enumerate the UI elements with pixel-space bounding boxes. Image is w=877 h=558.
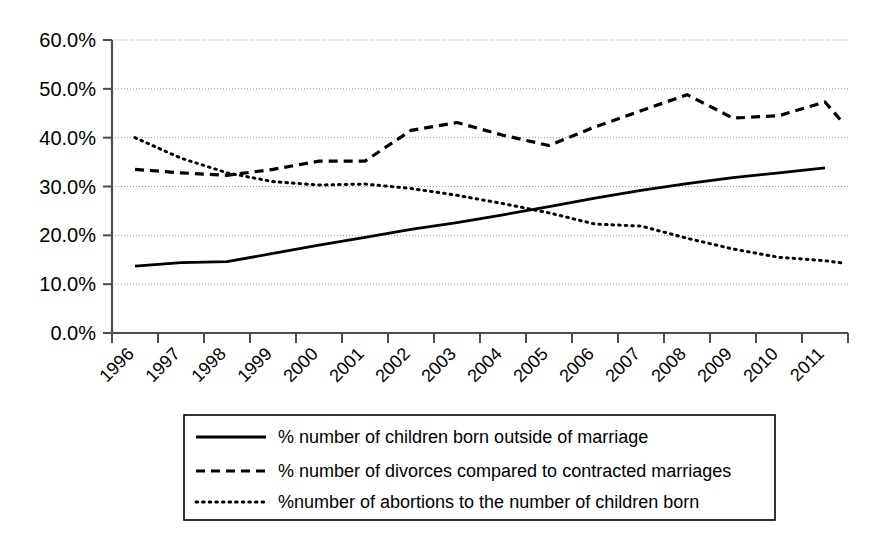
x-axis-labels: 1996199719981999200020012002200320042005… bbox=[95, 344, 827, 386]
x-tick-label-2004: 2004 bbox=[463, 344, 505, 386]
x-axis-ticks bbox=[112, 333, 848, 343]
series-line-1 bbox=[135, 95, 844, 176]
x-tick-label-2008: 2008 bbox=[647, 344, 689, 386]
y-tick-label: 50.0% bbox=[39, 78, 96, 100]
y-axis-labels: 0.0%10.0%20.0%30.0%40.0%50.0%60.0% bbox=[39, 29, 96, 344]
y-tick-label: 30.0% bbox=[39, 176, 96, 198]
x-tick-label-1996: 1996 bbox=[95, 344, 137, 386]
y-tick-label: 10.0% bbox=[39, 273, 96, 295]
x-tick-label-2003: 2003 bbox=[417, 344, 459, 386]
data-series bbox=[135, 95, 844, 266]
x-tick-label-1998: 1998 bbox=[187, 344, 229, 386]
legend-label-2: %number of abortions to the number of ch… bbox=[278, 492, 699, 512]
x-tick-label-2002: 2002 bbox=[371, 344, 413, 386]
y-tick-label: 60.0% bbox=[39, 29, 96, 51]
series-line-0 bbox=[135, 168, 825, 266]
series-line-2 bbox=[135, 138, 844, 264]
x-tick-label-2007: 2007 bbox=[601, 344, 643, 386]
x-tick-label-1999: 1999 bbox=[233, 344, 275, 386]
y-tick-label: 40.0% bbox=[39, 127, 96, 149]
line-chart: 0.0%10.0%20.0%30.0%40.0%50.0%60.0% 19961… bbox=[0, 0, 877, 558]
x-tick-label-2010: 2010 bbox=[739, 344, 781, 386]
legend-label-1: % number of divorces compared to contrac… bbox=[278, 461, 731, 481]
y-axis-ticks bbox=[103, 40, 112, 333]
x-tick-label-2009: 2009 bbox=[693, 344, 735, 386]
x-tick-label-2005: 2005 bbox=[509, 344, 551, 386]
chart-container: 0.0%10.0%20.0%30.0%40.0%50.0%60.0% 19961… bbox=[0, 0, 877, 558]
gridlines bbox=[112, 40, 848, 284]
x-tick-label-2006: 2006 bbox=[555, 344, 597, 386]
y-tick-label: 0.0% bbox=[50, 322, 96, 344]
legend-label-0: % number of children born outside of mar… bbox=[278, 427, 648, 447]
y-tick-label: 20.0% bbox=[39, 224, 96, 246]
x-tick-label-2011: 2011 bbox=[786, 344, 828, 386]
x-tick-label-2001: 2001 bbox=[325, 344, 367, 386]
x-tick-label-2000: 2000 bbox=[279, 344, 321, 386]
x-tick-label-1997: 1997 bbox=[141, 344, 183, 386]
